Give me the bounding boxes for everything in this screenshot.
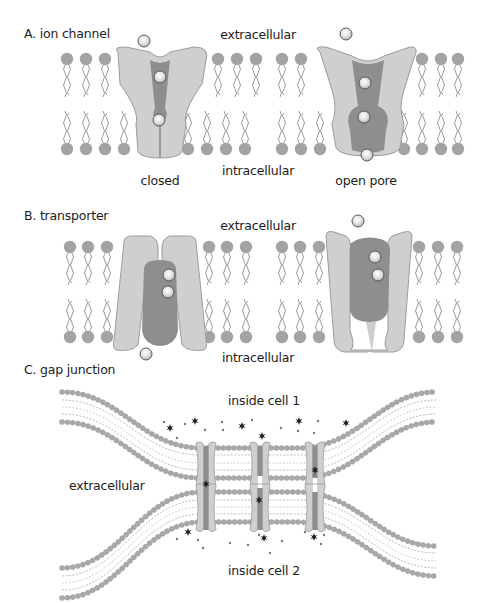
panel-a-intracellular-label: intracellular: [222, 163, 294, 178]
panel-c-title: C. gap junction: [24, 362, 115, 377]
ion-channel-open: [317, 28, 416, 161]
panel-a-title: A. ion channel: [24, 26, 110, 41]
panel-b-title: B. transporter: [24, 208, 108, 223]
panel-b-intracellular-label: intracellular: [222, 350, 294, 365]
transporter-inward: [113, 236, 206, 360]
ion-channel-closed: [116, 35, 207, 158]
panel-b-extracellular-label: extracellular: [220, 218, 296, 233]
gap-extracellular-label: extracellular: [69, 478, 145, 493]
closed-state-label: closed: [141, 173, 180, 188]
open-state-label: open pore: [335, 173, 397, 188]
transporter-outward: [326, 215, 412, 352]
connexon-pair-2: [250, 442, 270, 532]
inside-cell-1-label: inside cell 1: [228, 393, 300, 408]
diagram-canvas: [0, 0, 491, 603]
inside-cell-2-label: inside cell 2: [228, 563, 300, 578]
connexon-pair-3: [305, 442, 325, 532]
panel-a-extracellular-label: extracellular: [220, 27, 296, 42]
